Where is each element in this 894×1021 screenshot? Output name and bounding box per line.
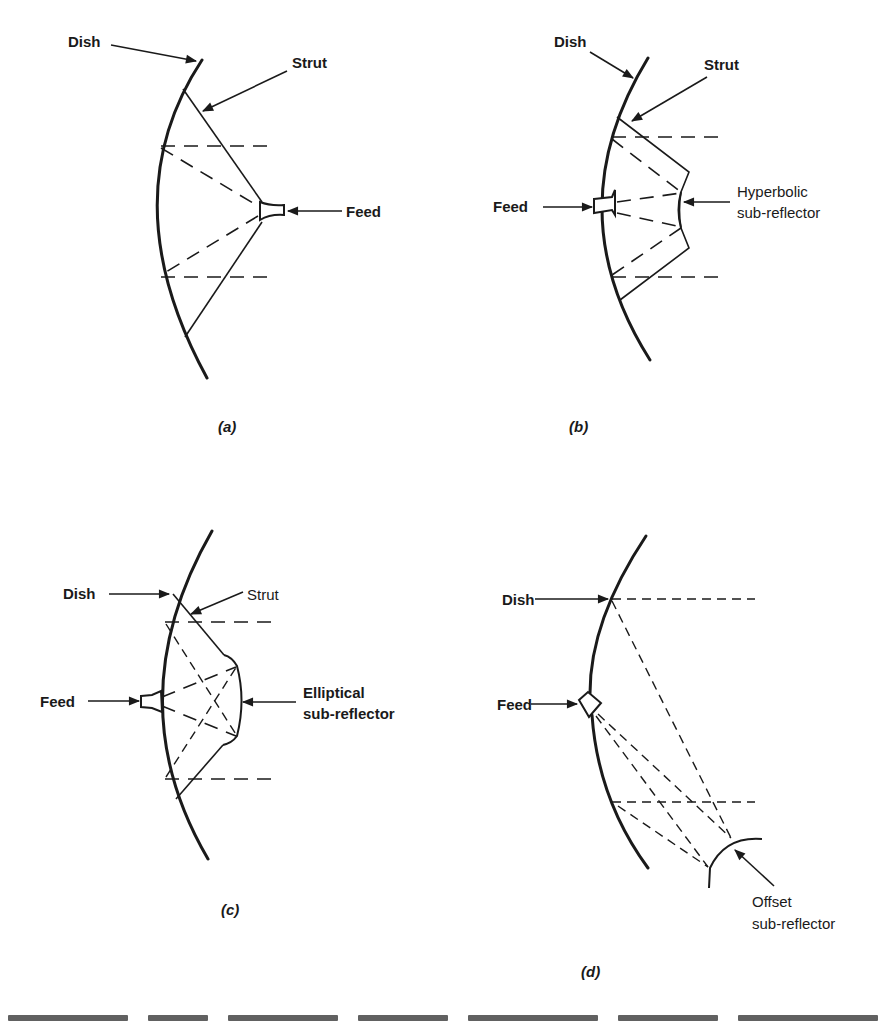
label-subreflector-d-2: sub-reflector xyxy=(752,915,835,932)
label-feed-c: Feed xyxy=(40,693,75,710)
panel-b: Dish Strut Feed Hyperbolic sub-reflector… xyxy=(493,33,820,435)
label-dish-d: Dish xyxy=(502,591,535,608)
feed-horn-d xyxy=(579,692,601,717)
label-subreflector-c-2: sub-reflector xyxy=(303,705,395,722)
label-subreflector-b-1: Hyperbolic xyxy=(737,183,808,200)
feed-horn-c xyxy=(141,691,162,712)
ray-a-bottom-diag xyxy=(161,216,258,275)
ray-b-feed-top xyxy=(617,193,681,202)
offset-subreflector xyxy=(709,839,762,888)
ray-a-top-diag xyxy=(161,148,258,206)
strut-c-bottom xyxy=(176,745,223,799)
panel-d: Dish Feed Offset sub-reflector (d) xyxy=(497,536,835,980)
ray-c-feed-bottom xyxy=(162,706,236,736)
feed-horn-b xyxy=(594,190,615,215)
antenna-figure: Dish Strut Feed (a) Dish Strut Feed Hype… xyxy=(0,0,894,1021)
label-subreflector-b-2: sub-reflector xyxy=(737,204,820,221)
ray-d-bottom-to-subref xyxy=(618,806,708,867)
sublabel-c: (c) xyxy=(221,901,239,918)
feed-horn-a xyxy=(260,202,284,220)
arrow-strut-b xyxy=(632,77,707,121)
arrow-subreflector-d xyxy=(735,850,774,886)
sublabel-b: (b) xyxy=(569,418,588,435)
ray-c-bottom-cross xyxy=(166,666,237,777)
ray-b-feed-bottom xyxy=(617,213,681,227)
strut-a-bottom xyxy=(185,222,262,337)
label-strut-a: Strut xyxy=(292,54,327,71)
arrow-strut-a xyxy=(203,71,287,111)
panel-c: Dish Strut Feed Elliptical sub-reflector… xyxy=(40,531,395,918)
label-strut-c: Strut xyxy=(247,586,280,603)
ray-c-feed-top xyxy=(162,667,236,697)
label-subreflector-c-1: Elliptical xyxy=(303,684,365,701)
label-subreflector-d-1: Offset xyxy=(752,893,793,910)
dish-reflector-d-lower xyxy=(592,715,648,868)
sublabel-d: (d) xyxy=(581,963,600,980)
dish-reflector-d-upper xyxy=(590,536,646,693)
arrow-strut-c xyxy=(191,592,243,614)
dish-reflector-a xyxy=(157,60,207,378)
panel-a: Dish Strut Feed (a) xyxy=(68,33,381,435)
label-strut-b: Strut xyxy=(704,56,739,73)
ray-b-top-diag xyxy=(612,139,681,192)
ray-c-top-cross xyxy=(166,624,237,736)
arrow-dish-a xyxy=(111,45,196,61)
label-dish-c: Dish xyxy=(63,585,96,602)
label-feed-b: Feed xyxy=(493,198,528,215)
sublabel-a: (a) xyxy=(218,418,236,435)
ray-b-bottom-diag xyxy=(612,228,681,275)
label-dish-a: Dish xyxy=(68,33,101,50)
figure-caption-clipped xyxy=(8,1009,888,1021)
ray-d-feed-2 xyxy=(596,716,708,867)
label-dish-b: Dish xyxy=(554,33,587,50)
label-feed-d: Feed xyxy=(497,696,532,713)
dish-reflector-c xyxy=(162,531,212,859)
label-feed-a: Feed xyxy=(346,203,381,220)
arrow-dish-b xyxy=(590,52,633,78)
